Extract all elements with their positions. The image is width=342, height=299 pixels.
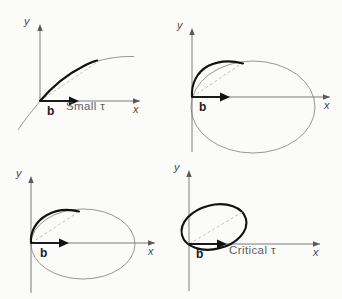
y-axis-label: y xyxy=(23,15,31,27)
axes-large-ellipse xyxy=(189,28,330,152)
chord-dashed-line xyxy=(40,63,96,101)
panel-caption: Small τ xyxy=(66,100,105,112)
chord-dashed-line xyxy=(31,213,77,243)
orbit-ellipse-thin xyxy=(191,61,315,153)
impact-parameter-label: b xyxy=(199,100,206,114)
panel-small-tau: y x b Small τ xyxy=(18,15,140,130)
y-axis-arrowhead xyxy=(28,176,33,183)
impact-parameter-label: b xyxy=(47,104,54,118)
x-axis-label: x xyxy=(312,246,319,258)
trajectory-curve-thin xyxy=(18,56,134,130)
impact-parameter-label: b xyxy=(196,247,203,261)
panel-large-ellipse: y x b xyxy=(176,19,330,153)
impact-parameter-arrow xyxy=(192,93,230,102)
impact-parameter-arrow xyxy=(31,239,69,248)
y-axis-label: y xyxy=(173,161,181,173)
b-arrow-head xyxy=(220,93,230,102)
panel-caption: Critical τ xyxy=(229,244,276,256)
orbit-trajectories-figure: y x b Small τ y x b xyxy=(0,0,342,299)
trajectory-curve-bold xyxy=(40,61,97,101)
y-axis-arrowhead xyxy=(37,24,42,31)
orbit-ellipse-thin xyxy=(31,209,135,279)
y-axis-arrowhead xyxy=(189,28,194,35)
impact-parameter-label: b xyxy=(40,246,47,260)
panel-medium-ellipse: y x b xyxy=(15,167,155,293)
y-axis-label: y xyxy=(176,19,184,31)
axes-medium-ellipse xyxy=(28,176,155,293)
y-axis-arrowhead xyxy=(186,170,191,177)
b-arrow-head xyxy=(59,239,69,248)
orbit-arc-bold xyxy=(192,61,243,97)
y-axis-label: y xyxy=(15,167,23,179)
panel-critical-tau: y x b Critical τ xyxy=(173,161,320,291)
x-axis-label: x xyxy=(323,99,330,111)
x-axis-label: x xyxy=(132,103,139,115)
chord-dashed-line xyxy=(189,211,244,244)
x-axis-label: x xyxy=(147,245,154,257)
axes-critical-tau xyxy=(186,170,320,291)
chord-dashed-line xyxy=(192,64,241,97)
